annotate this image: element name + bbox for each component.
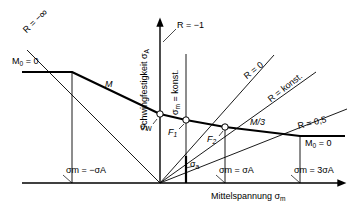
leader-sigma-m-sigma-a [216,175,225,183]
label-r-minus-one: R = −1 [177,21,204,30]
label-sigma-a: σa [190,160,199,169]
label-sigma-m-konst: σm = konst. [171,70,180,115]
leader-r-minus-one [163,29,176,42]
leader-f1 [179,124,184,129]
label-sigma-m-eq-sigma-a: σm = σA [219,166,254,175]
marker-f1 [183,117,189,123]
leader-sigma-m-3-sigma-a [291,175,300,183]
label-f2: F2 [207,135,216,144]
marker-sigma-w [157,111,163,117]
label-f1: F1 [168,128,177,137]
label-x-axis: Mittelspannung σm [211,192,286,201]
label-m-third: M/3 [250,118,265,127]
label-m: M [105,80,113,89]
label-sigma-w: σW [140,122,152,131]
label-m0-right: M0 = 0 [305,139,331,148]
label-m0-left: M0 = 0 [12,57,38,66]
label-sigma-m-eq-neg-sigma-a: σm = −σA [66,166,106,175]
haigh-diagram: R = −∞ M0 = 0 M Schwingfestigkeit σA R =… [0,0,351,209]
leader-f2 [219,131,223,136]
label-y-axis: Schwingfestigkeit σA [140,49,149,131]
leader-sigma-w [153,119,157,124]
leader-sigma-m-neg-sigma-a [63,175,72,183]
marker-f2 [222,124,228,130]
label-sigma-m-eq-3-sigma-a: σm = 3σA [294,166,334,175]
